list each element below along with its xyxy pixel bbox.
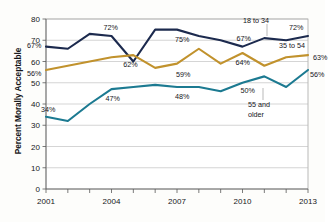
y-tick-0: 0	[0, 185, 40, 194]
point-label: 67%	[27, 41, 41, 50]
x-tick-2004: 2004	[92, 197, 132, 206]
y-tick-40: 40	[0, 100, 40, 109]
y-tick-10: 10	[0, 163, 40, 172]
series-label-55-and-older-line2: older	[248, 110, 264, 119]
y-tick-60: 60	[0, 57, 40, 66]
y-tick-30: 30	[0, 121, 40, 130]
point-label: 59%	[176, 70, 190, 79]
point-label: 72%	[289, 23, 303, 32]
y-tick-20: 20	[0, 142, 40, 151]
point-label: 34%	[41, 105, 55, 114]
series-label-18-to-34: 18 to 34	[243, 16, 269, 25]
y-tick-80: 80	[0, 15, 40, 24]
point-label: 67%	[237, 34, 251, 43]
point-label: 64%	[236, 58, 250, 67]
point-label: 50%	[241, 86, 255, 95]
point-label: 56%	[310, 70, 324, 79]
point-label: 47%	[106, 94, 120, 103]
series-label-35-to-54: 35 to 54	[279, 41, 305, 50]
point-label: 75%	[175, 35, 189, 44]
x-tick-2007: 2007	[157, 197, 197, 206]
x-tick-2013: 2013	[288, 197, 328, 206]
point-label: 72%	[104, 23, 118, 32]
x-tick-2010: 2010	[223, 197, 263, 206]
y-tick-50: 50	[0, 78, 40, 87]
point-label: 48%	[175, 92, 189, 101]
point-label: 62%	[123, 60, 137, 69]
point-label: 56%	[27, 69, 41, 78]
series-label-55-and-older-line1: 55 and	[248, 100, 270, 109]
point-label: 63%	[313, 53, 327, 62]
x-tick-2001: 2001	[26, 197, 66, 206]
